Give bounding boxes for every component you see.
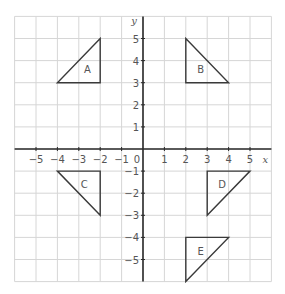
triangle-label-c: C [81, 179, 88, 190]
triangle-label-b: B [197, 64, 204, 75]
axes [15, 16, 272, 281]
y-tick-label: 2 [133, 100, 139, 111]
x-tick-label: −1 [114, 154, 129, 165]
x-tick-label: 5 [247, 154, 253, 165]
y-tick-label: 3 [133, 78, 139, 89]
y-tick-label: −5 [124, 255, 139, 266]
x-tick-label: 3 [204, 154, 210, 165]
y-tick-label: −3 [124, 210, 139, 221]
y-axis-label: y [130, 15, 137, 26]
x-tick-label: 4 [225, 154, 231, 165]
y-tick-label: −1 [124, 166, 139, 177]
y-tick-label: 1 [133, 122, 139, 133]
y-tick-label: −2 [124, 188, 139, 199]
x-tick-label: −4 [50, 154, 65, 165]
triangle-label-d: D [218, 179, 226, 190]
triangle-label-e: E [198, 246, 204, 257]
y-tick-label: −4 [124, 232, 139, 243]
x-tick-label: −2 [93, 154, 108, 165]
tick-labels: −5−4−3−2−112345054321−1−2−3−4−5xy [29, 15, 269, 265]
y-tick-label: 5 [133, 34, 139, 45]
y-tick-label: 4 [133, 56, 139, 67]
x-tick-label: −3 [71, 154, 86, 165]
x-axis-label: x [263, 154, 269, 165]
coordinate-grid: −5−4−3−2−112345054321−1−2−3−4−5xy ABCDE [0, 0, 285, 294]
shapes: ABCDE [57, 39, 250, 282]
x-tick-label: 1 [161, 154, 167, 165]
origin-label: 0 [134, 154, 140, 165]
x-tick-label: −5 [29, 154, 44, 165]
x-tick-label: 2 [183, 154, 189, 165]
triangle-label-a: A [84, 64, 91, 75]
